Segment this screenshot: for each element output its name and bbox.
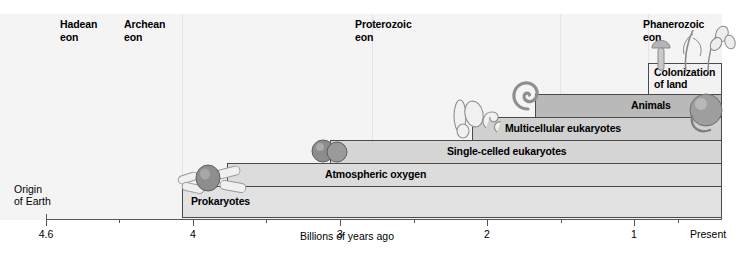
present-label: Present: [690, 228, 726, 240]
axis-tick-label-2: 2: [484, 228, 490, 240]
bar-atmospheric-oxygen: Atmospheric oxygen: [227, 163, 722, 187]
axis-tick-1: [634, 219, 635, 226]
axis-tick-4.5: [119, 219, 120, 223]
eon-label-hadean: Hadean eon: [60, 18, 97, 43]
axis-tick-label-4: 4: [190, 228, 196, 240]
animal-organism-illustration: [682, 90, 732, 140]
bar-label-animals: Animals: [536, 100, 671, 112]
axis-tick-label-4.6: 4.6: [39, 228, 54, 240]
single-celled-eukaryote-illustration: [308, 136, 354, 166]
axis-tick-0.5: [678, 219, 679, 223]
timeline-diagram: Hadean eon Archean eon Proterozoic eon P…: [0, 0, 737, 255]
axis-title: Billions of years ago: [300, 230, 394, 242]
time-axis-line: [46, 219, 722, 220]
eon-label-archean: Archean eon: [124, 18, 165, 43]
bar-label-atmospheric-oxygen: Atmospheric oxygen: [228, 169, 426, 181]
axis-tick-2.5: [414, 219, 415, 223]
axis-tick-1.5: [561, 219, 562, 223]
prokaryote-cell-illustration: [176, 158, 250, 202]
bar-prokaryotes: Prokaryotes: [182, 186, 722, 218]
axis-tick-4: [193, 219, 194, 226]
origin-of-earth-label: Origin of Earth: [14, 183, 51, 207]
bar-label-single-celled-eukaryotes: Single-celled eukaryotes: [331, 146, 567, 158]
bar-single-celled-eukaryotes: Single-celled eukaryotes: [330, 140, 722, 164]
axis-tick-3: [340, 219, 341, 226]
spiral-shell-illustration: [510, 78, 546, 112]
land-plants-and-mushroom-illustration: [646, 24, 736, 74]
axis-tick-label-1: 1: [631, 228, 637, 240]
multicellular-algae-illustration: [450, 98, 512, 142]
eon-label-proterozoic: Proterozoic eon: [355, 18, 412, 43]
axis-tick-4.6: [46, 219, 47, 226]
axis-tick-3.5: [266, 219, 267, 223]
axis-tick-2: [487, 219, 488, 226]
axis-end-right: [721, 214, 722, 220]
